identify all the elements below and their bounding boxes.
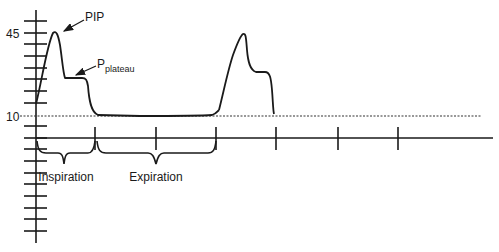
- plateau-arrow: [76, 66, 96, 75]
- waveform-breath-1: [36, 32, 219, 116]
- expiration-label: Expiration: [129, 170, 182, 184]
- inspiration-label: Inspiration: [38, 170, 93, 184]
- pressure-waveform-diagram: 45 10 PIP Pplateau Inspiration Expiratio…: [0, 0, 499, 252]
- x-axis: [36, 127, 493, 150]
- y-label-10: 10: [6, 110, 20, 124]
- y-axis: [24, 10, 47, 243]
- y-label-45: 45: [6, 27, 20, 41]
- waveform-breath-2: [219, 34, 274, 114]
- pip-arrow: [64, 20, 84, 31]
- plateau-subscript: plateau: [105, 64, 135, 74]
- pip-label: PIP: [85, 10, 104, 24]
- plateau-label: Pplateau: [97, 57, 135, 74]
